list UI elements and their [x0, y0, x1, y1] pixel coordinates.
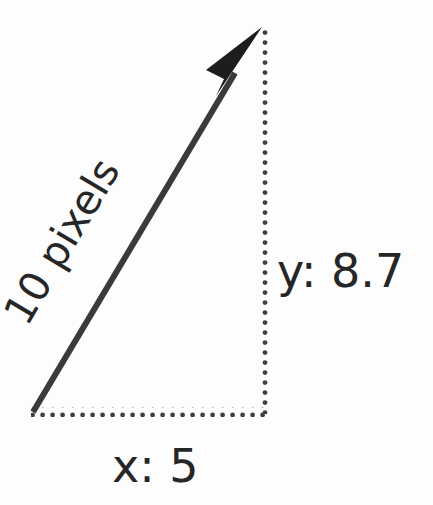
vector-diagram: 10 pixels y: 8.7 x: 5	[0, 0, 433, 505]
x-component-label: x: 5	[112, 441, 199, 491]
y-component-label: y: 8.7	[277, 246, 404, 296]
y-component-dotted-line	[258, 26, 268, 414]
vector-arrow-head	[206, 27, 262, 96]
x-component-dotted-line	[31, 407, 265, 417]
